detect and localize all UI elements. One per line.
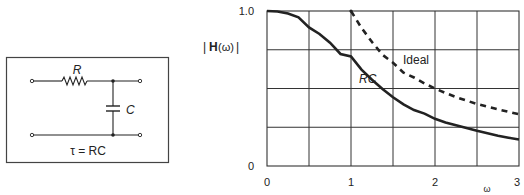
grid — [267, 11, 519, 166]
y-tick-0: 0 — [248, 160, 254, 172]
y-label-bar-right: | — [236, 40, 239, 54]
y-axis-label: | H (ω) | — [203, 40, 239, 54]
y-label-bar-left: | — [203, 40, 206, 54]
x-tick-2: 2 — [432, 176, 438, 188]
terminal-in-bottom — [30, 133, 33, 136]
x-tick-1: 1 — [348, 176, 354, 188]
circuit-diagram: R C τ = RC — [7, 58, 169, 163]
capacitor-label: C — [126, 103, 135, 117]
terminal-in-top — [30, 79, 33, 82]
ideal-start-marker — [349, 9, 352, 12]
time-constant-label: τ = RC — [70, 144, 106, 158]
terminal-out-bottom — [138, 133, 141, 136]
junction-dot-bottom — [111, 133, 115, 137]
frequency-response-chart: 1.0 0 0 1 2 3 | H (ω) | ω Ideal RC — [203, 5, 520, 194]
x-tick-3: 3 — [514, 176, 520, 188]
resistor-icon — [62, 77, 87, 85]
junction-dot-top — [111, 79, 115, 83]
x-axis-label: ω — [483, 184, 490, 194]
figure: R C τ = RC 1.0 0 0 1 2 3 | — [0, 0, 524, 195]
ideal-label: Ideal — [403, 53, 429, 67]
y-tick-1: 1.0 — [239, 5, 254, 17]
x-tick-0: 0 — [264, 176, 270, 188]
y-label-arg: (ω) — [218, 41, 234, 53]
y-label-h: H — [209, 40, 218, 54]
resistor-label: R — [73, 63, 82, 77]
rc-label: RC — [359, 72, 377, 86]
terminal-out-top — [138, 79, 141, 82]
